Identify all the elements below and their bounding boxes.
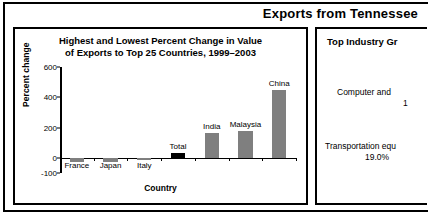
plot-canvas: -1000200400600FranceJapanItalyTotalIndia… bbox=[60, 67, 296, 173]
x-tick-mark bbox=[195, 158, 196, 161]
y-tick-label: 400 bbox=[44, 93, 57, 102]
bar-label-japan: Japan bbox=[100, 161, 122, 170]
y-axis-label: Percent change bbox=[21, 95, 31, 107]
industry-group-label: Transportation equ bbox=[325, 141, 396, 151]
industry-groups-panel: Top Industry Gr Computer and 1 Transport… bbox=[315, 27, 427, 205]
x-tick-mark bbox=[229, 158, 230, 161]
bar-label-total: Total bbox=[170, 142, 187, 151]
y-tick-label: 0 bbox=[53, 153, 57, 162]
bar-italy bbox=[137, 158, 151, 160]
y-tick-mark bbox=[57, 67, 60, 68]
x-tick-mark bbox=[94, 158, 95, 161]
y-tick-label: -100 bbox=[41, 169, 57, 178]
bar-china bbox=[272, 90, 286, 157]
industry-group-label: Computer and bbox=[337, 87, 391, 97]
y-tick-mark bbox=[57, 97, 60, 98]
y-tick-mark bbox=[57, 157, 60, 158]
bar-label-china: China bbox=[269, 79, 290, 88]
x-tick-mark bbox=[262, 158, 263, 161]
bar-malaysia bbox=[238, 131, 252, 158]
bar-label-france: France bbox=[64, 161, 89, 170]
x-axis-line bbox=[60, 158, 296, 160]
y-tick-mark bbox=[57, 127, 60, 128]
y-tick-label: 200 bbox=[44, 123, 57, 132]
industry-group-value: 1 bbox=[337, 98, 408, 109]
x-axis-label: Country bbox=[15, 183, 306, 193]
page-title: Exports from Tennessee bbox=[263, 6, 418, 21]
industry-group-item: Computer and 1 bbox=[337, 87, 408, 109]
x-tick-mark bbox=[127, 158, 128, 161]
y-tick-label: 600 bbox=[44, 63, 57, 72]
x-tick-mark bbox=[161, 158, 162, 161]
industry-groups-title: Top Industry Gr bbox=[327, 36, 398, 47]
bar-label-india: India bbox=[203, 122, 220, 131]
chart-panel: Highest and Lowest Percent Change in Val… bbox=[13, 27, 308, 205]
bar-label-italy: Italy bbox=[137, 161, 152, 170]
bar-india bbox=[205, 133, 219, 158]
plot-area: Percent change -1000200400600FranceJapan… bbox=[15, 29, 306, 203]
x-tick-mark bbox=[296, 158, 297, 161]
industry-group-value: 19.0% bbox=[325, 152, 396, 163]
bar-label-malaysia: Malaysia bbox=[230, 120, 262, 129]
industry-group-item: Transportation equ 19.0% bbox=[325, 141, 396, 163]
bar-total bbox=[171, 153, 185, 158]
banner: Exports from Tennessee bbox=[3, 2, 420, 24]
y-tick-mark bbox=[57, 173, 60, 174]
